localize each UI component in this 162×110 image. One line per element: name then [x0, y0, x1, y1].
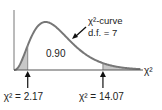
curve-pointer-arrowhead: [72, 33, 78, 39]
arrow-head: [100, 71, 106, 77]
center-area-label: 0.90: [46, 48, 66, 59]
right-cutoff-arrow: [100, 71, 106, 88]
left-cutoff-arrow: [25, 71, 31, 88]
curve-pointer-line: [76, 27, 86, 36]
chi-square-chart: χ² χ²-curve d.f. = 7 0.90 χ² = 2.17 χ² =…: [0, 0, 162, 110]
right-cutoff-label: χ² = 14.07: [79, 91, 124, 102]
arrow-head: [25, 71, 31, 77]
x-axis-label: χ²: [144, 65, 153, 76]
curve-label: χ²-curve: [88, 15, 123, 26]
df-label: d.f. = 7: [88, 27, 117, 38]
left-cutoff-label: χ² = 2.17: [4, 91, 44, 102]
chi-square-curve: [14, 22, 140, 70]
